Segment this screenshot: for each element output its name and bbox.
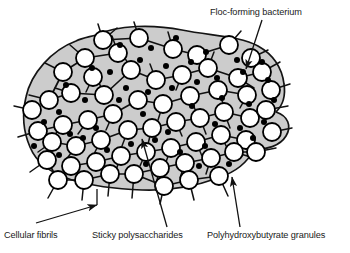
phb-granule: [165, 129, 171, 135]
bacterial-cell: [191, 109, 209, 127]
label-cellular-fibrils: Cellular fibrils: [4, 230, 58, 240]
cellular-fibrils-leader: [36, 205, 97, 223]
phb-granule: [56, 152, 62, 158]
phb-granule: [203, 49, 209, 55]
phb-granule: [123, 85, 129, 91]
phb-granule: [234, 57, 240, 63]
bacterial-cell: [147, 71, 165, 89]
phb-granule: [188, 59, 194, 65]
label-floc-forming-bacterium: Floc-forming bacterium: [210, 7, 302, 17]
bacterial-cell: [49, 171, 67, 189]
floc-structure-diagram: [0, 0, 350, 253]
bacterial-cell: [263, 123, 281, 141]
bacterial-cell: [247, 143, 265, 161]
phb-granule: [250, 135, 256, 141]
bacterial-cell: [164, 40, 182, 58]
phb-granule: [80, 135, 86, 141]
bacterial-cell: [40, 91, 58, 109]
phb-granule: [163, 63, 169, 69]
bacterial-cell: [176, 154, 194, 172]
phb-granule: [240, 69, 246, 75]
bacterial-cell: [187, 133, 205, 151]
phb-granule: [31, 143, 37, 149]
bacterial-cell: [212, 126, 230, 144]
bacterial-cell: [162, 139, 180, 157]
phb-granule: [196, 163, 202, 169]
bacterial-cell: [238, 86, 256, 104]
phb-granule: [189, 103, 195, 109]
bacterial-cell: [225, 143, 243, 161]
phb-granule: [128, 141, 134, 147]
phb-granule: [169, 85, 175, 91]
bacterial-cell: [101, 165, 119, 183]
bacterial-cell: [257, 101, 275, 119]
bacterial-cell: [151, 159, 169, 177]
phb-granule: [116, 97, 122, 103]
phb-granule: [93, 125, 99, 131]
bacterial-cell: [112, 147, 130, 165]
phb-granule: [271, 97, 277, 103]
phb-granule: [152, 137, 158, 143]
phb-granule: [237, 125, 243, 131]
bacterial-cell: [38, 151, 56, 169]
phb-granule: [194, 79, 200, 85]
bacterial-cell: [62, 157, 80, 175]
label-polyhydroxybutyrate-granules: Polyhydroxybutyrate granules: [207, 230, 325, 240]
bacterial-cell: [122, 61, 140, 79]
bacterial-cell: [220, 36, 238, 54]
phb-granule: [261, 119, 267, 125]
bacterial-cell: [180, 171, 198, 189]
phb-granule: [107, 69, 113, 75]
phb-granule: [177, 149, 183, 155]
bacterial-cell: [129, 91, 147, 109]
bacterial-cell: [75, 171, 93, 189]
bacterial-cell: [199, 59, 217, 77]
phb-granule: [219, 95, 225, 101]
phb-granule: [67, 131, 73, 137]
bacterial-cell: [143, 119, 161, 137]
bacterial-cell: [215, 103, 233, 121]
phb-granule: [202, 143, 208, 149]
bacterial-cell: [76, 49, 94, 67]
bacterial-cell: [181, 87, 199, 105]
label-sticky-polysaccharides: Sticky polysaccharides: [92, 230, 183, 240]
phb-granule: [214, 75, 220, 81]
phb-granule: [145, 89, 151, 95]
phb-granule: [104, 147, 110, 153]
bacterial-cell: [130, 29, 148, 47]
phb-granule: [246, 101, 252, 107]
bacterial-cell: [202, 149, 220, 167]
bacterial-cell: [92, 131, 110, 149]
phb-granule: [82, 97, 88, 103]
bacterial-cell: [104, 105, 122, 123]
bacterial-cell: [23, 101, 41, 119]
bacterial-cell: [262, 81, 280, 99]
phb-granule: [137, 57, 143, 63]
bacterial-cell: [119, 121, 137, 139]
bacterial-cell: [43, 133, 61, 151]
phb-granules-leader: [232, 177, 240, 227]
phb-granule: [41, 119, 47, 125]
phb-granule: [265, 77, 271, 83]
phb-granule: [117, 42, 123, 48]
bacterial-cell: [125, 165, 143, 183]
phb-granule: [226, 161, 232, 167]
phb-granule: [89, 65, 95, 71]
phb-granule: [140, 111, 146, 117]
phb-granule: [212, 121, 218, 127]
bacterial-cell: [173, 66, 191, 84]
bacterial-cell: [94, 31, 112, 49]
phb-granule: [56, 109, 62, 115]
bacterial-cell: [95, 86, 113, 104]
phb-granule: [173, 35, 179, 41]
phb-granule: [259, 59, 265, 65]
bacterial-cell: [210, 167, 228, 185]
phb-granule: [148, 45, 154, 51]
bacterial-cell: [167, 113, 185, 131]
bacterial-cell: [154, 95, 172, 113]
phb-granule: [63, 82, 69, 88]
bacterial-cell: [54, 63, 72, 81]
